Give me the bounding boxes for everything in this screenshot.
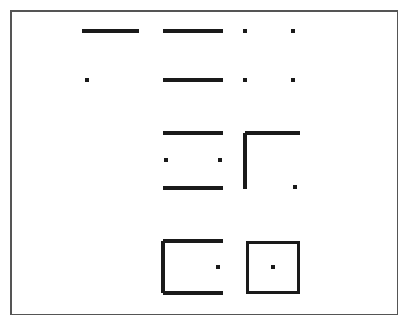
row2-col1-dot: [85, 78, 90, 83]
row4-col3-center-dot: [271, 265, 276, 270]
row3-col4-dot: [293, 185, 298, 190]
figure-frame: [11, 11, 398, 315]
row2-col4-dot: [291, 78, 296, 83]
row3-col2-left-dot: [164, 158, 169, 163]
row2-col3-dot: [243, 78, 248, 83]
figure-container: [0, 0, 409, 326]
row4-col2-dot: [216, 265, 221, 270]
row3-col2-right-dot: [218, 158, 223, 163]
row1-col4-dot: [291, 29, 296, 34]
geometric-figure-canvas: [0, 0, 409, 326]
row1-col3-dot: [243, 29, 248, 34]
